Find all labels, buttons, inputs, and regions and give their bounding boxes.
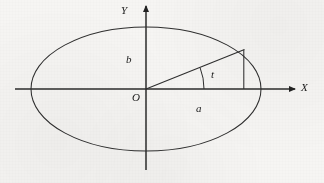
origin-label: O [132, 92, 140, 103]
y-axis-label: Y [121, 5, 127, 16]
ellipse-diagram-canvas [0, 0, 324, 183]
x-axis-label: X [301, 82, 308, 93]
angle-arc [200, 68, 204, 89]
angle-parameter-label: t [211, 69, 214, 80]
semi-major-axis-label: a [196, 103, 202, 114]
ellipse-diagram-figure: Y X O b a t [0, 0, 324, 183]
semi-minor-axis-label: b [126, 54, 132, 65]
radius-line [146, 50, 245, 90]
